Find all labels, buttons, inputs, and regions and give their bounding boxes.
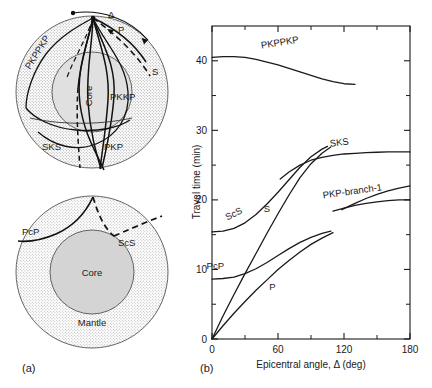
panel-b-tag: (b) <box>200 362 213 374</box>
diagram-label-SKS: SKS <box>42 141 61 152</box>
panel-a-tag: (a) <box>22 362 35 374</box>
lower-earth-diagram: PcP ScS Core Mantle <box>16 196 168 348</box>
panel-a-svg: P S PKPPKP PKKP SKS PKP Core Δ PcP ScS <box>0 0 195 388</box>
curve-label-PcP: PcP <box>207 260 224 271</box>
x-tick-label: 60 <box>272 344 284 355</box>
diagram-label-PKP: PKP <box>104 141 123 152</box>
x-tick-label: 180 <box>402 344 419 355</box>
x-tick-label: 120 <box>336 344 353 355</box>
epicentral-angle-symbol: Δ <box>108 9 115 20</box>
upper-earth-diagram: P S PKPPKP PKKP SKS PKP Core Δ <box>16 9 168 170</box>
travel-time-chart-svg: 060120180010203040 PKPPKPSKSScSSPcPPPKP-… <box>190 0 432 388</box>
diagram-label-PcP: PcP <box>22 226 39 237</box>
lower-core-label: Core <box>82 267 103 278</box>
arc-start-dot <box>71 11 75 15</box>
curve-label-P: P <box>269 281 275 292</box>
diagram-label-S: S <box>152 66 158 77</box>
y-tick-label: 0 <box>201 334 207 345</box>
y-tick-label: 40 <box>196 55 208 66</box>
y-tick-label: 30 <box>196 125 208 136</box>
upper-core-label: Core <box>83 86 94 107</box>
x-axis-title: Epicentral angle, Δ (deg) <box>256 359 366 370</box>
diagram-label-P: P <box>118 24 124 35</box>
y-axis-title: Travel time (min) <box>191 145 202 220</box>
panel-a-ray-diagrams: P S PKPPKP PKKP SKS PKP Core Δ PcP ScS <box>0 0 195 388</box>
panel-b-travel-time-chart: 060120180010203040 PKPPKPSKSScSSPcPPPKP-… <box>190 0 432 388</box>
figure-root: P S PKPPKP PKKP SKS PKP Core Δ PcP ScS <box>0 0 432 388</box>
x-tick-label: 0 <box>209 344 215 355</box>
diagram-label-PKKP: PKKP <box>110 91 135 102</box>
diagram-label-ScS: ScS <box>118 237 135 248</box>
curve-label-S: S <box>264 203 270 214</box>
curve-label-SKS: SKS <box>329 136 349 149</box>
mantle-label: Mantle <box>78 317 107 328</box>
